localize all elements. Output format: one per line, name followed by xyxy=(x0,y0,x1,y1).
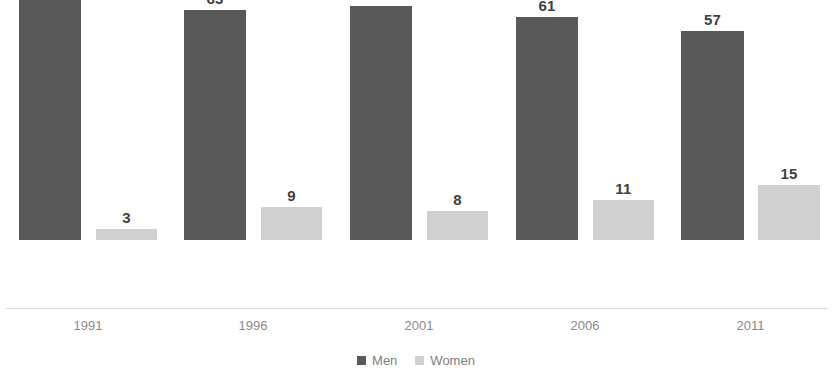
bar-value-label: 15 xyxy=(758,165,820,182)
legend-swatch-icon-women xyxy=(415,356,424,365)
legend-item-men[interactable]: Men xyxy=(357,353,397,368)
legend: Men Women xyxy=(0,353,832,368)
bar-value-label: 61 xyxy=(516,0,578,14)
bar-women[interactable]: 11 xyxy=(593,200,654,240)
bar-women[interactable]: 15 xyxy=(758,185,820,240)
bar-value-label: 8 xyxy=(427,191,488,208)
bar-men[interactable]: 61 xyxy=(516,17,578,240)
bar-chart: 76 3 63 9 64 8 61 xyxy=(0,0,832,378)
legend-label-women: Women xyxy=(430,353,475,368)
bar-value-label: 11 xyxy=(593,180,654,197)
bar-value-label: 64 xyxy=(350,0,412,3)
bar-women[interactable]: 9 xyxy=(261,207,322,240)
x-tick-label-1996: 1996 xyxy=(184,318,322,333)
legend-item-women[interactable]: Women xyxy=(415,353,475,368)
bar-men[interactable]: 57 xyxy=(681,31,744,240)
x-axis-baseline xyxy=(6,308,828,309)
bar-value-label: 57 xyxy=(681,11,744,28)
bar-men[interactable]: 63 xyxy=(184,10,246,240)
bar-men[interactable]: 76 xyxy=(19,0,81,240)
x-tick-label-2001: 2001 xyxy=(350,318,488,333)
legend-swatch-icon-men xyxy=(357,356,366,365)
plot-area: 76 3 63 9 64 8 61 xyxy=(0,0,832,310)
x-tick-label-2011: 2011 xyxy=(681,318,820,333)
bar-men[interactable]: 64 xyxy=(350,6,412,240)
bar-value-label: 9 xyxy=(261,187,322,204)
bar-women[interactable]: 3 xyxy=(96,229,157,240)
legend-label-men: Men xyxy=(372,353,397,368)
bar-value-label: 3 xyxy=(96,209,157,226)
x-tick-label-2006: 2006 xyxy=(516,318,654,333)
bar-value-label: 63 xyxy=(184,0,246,7)
bar-women[interactable]: 8 xyxy=(427,211,488,240)
x-tick-label-1991: 1991 xyxy=(19,318,157,333)
